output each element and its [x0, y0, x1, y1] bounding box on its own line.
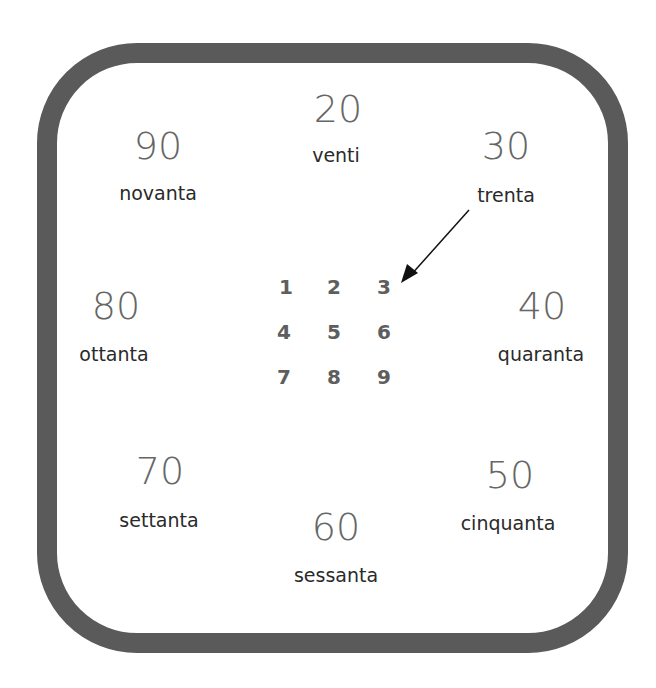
arrow-icon: [0, 0, 656, 688]
